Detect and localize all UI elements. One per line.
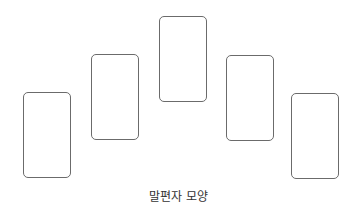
card-position-1 [23,92,71,178]
diagram-caption: 말편자 모양 [0,187,357,204]
card-position-3 [159,16,207,102]
card-position-5 [291,93,339,179]
card-position-4 [226,55,274,141]
card-position-2 [91,54,139,140]
